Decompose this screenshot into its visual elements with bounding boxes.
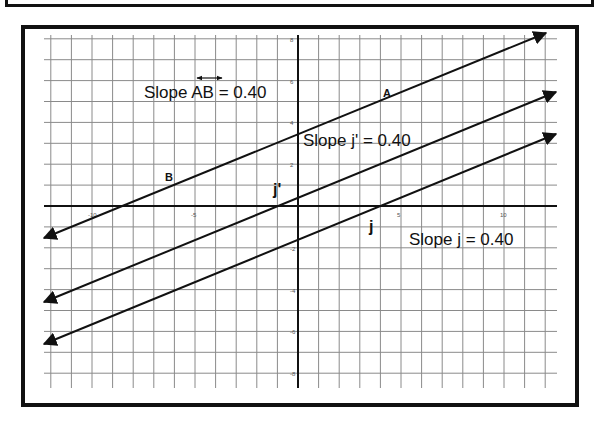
slope-j-prime-label: Slope j' = 0.40 bbox=[303, 131, 411, 151]
y-tick-label: 4 bbox=[290, 120, 294, 126]
y-tick-label: -4 bbox=[290, 288, 296, 294]
line-j-prime bbox=[44, 92, 556, 302]
x-tick-label: 5 bbox=[397, 212, 401, 218]
y-tick-label: -2 bbox=[290, 246, 296, 252]
axes bbox=[44, 35, 557, 388]
y-tick-label: 2 bbox=[290, 162, 294, 168]
line-j-label: j bbox=[369, 218, 373, 236]
coordinate-plane: -10-55108642-2-4-6-8 bbox=[0, 0, 597, 424]
line-ab bbox=[44, 33, 546, 238]
grid-lines bbox=[44, 35, 557, 388]
point-a-label: A bbox=[383, 87, 391, 99]
y-tick-label: 8 bbox=[290, 37, 294, 43]
point-b-label: B bbox=[165, 171, 173, 183]
x-tick-label: -5 bbox=[191, 212, 197, 218]
slope-j-label: Slope j = 0.40 bbox=[409, 230, 513, 250]
slope-ab-label: Slope AB = 0.40 bbox=[144, 83, 266, 103]
parallel-lines bbox=[44, 33, 556, 344]
line-j-prime-label: j' bbox=[273, 181, 281, 199]
y-tick-label: -6 bbox=[290, 329, 296, 335]
y-tick-label: 6 bbox=[290, 79, 294, 85]
y-tick-label: -8 bbox=[290, 371, 296, 377]
x-tick-label: 10 bbox=[500, 212, 507, 218]
